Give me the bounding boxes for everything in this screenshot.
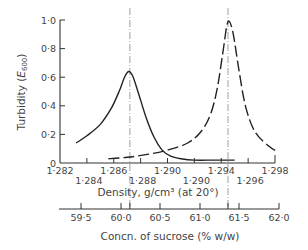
sedimentation-chart: 00·20·40·60·81·01·2821·2861·2901·2941·29… xyxy=(0,0,308,250)
data-series xyxy=(76,21,278,160)
x-tick-label: 1·294 xyxy=(208,165,235,176)
secondary-x-tick-label: 61·0 xyxy=(189,212,210,223)
secondary-x-tick-label: 59·5 xyxy=(70,212,91,223)
x-tick-label: 1·288 xyxy=(129,175,156,186)
x-tick-label: 1·286 xyxy=(100,165,127,176)
secondary-x-axis-title: Concn. of sucrose (% w/w) xyxy=(101,230,240,242)
x-tick-label: 1·290 xyxy=(183,175,210,186)
secondary-x-tick-label: 61·5 xyxy=(228,212,249,223)
x-tick-label: 1·290 xyxy=(154,165,181,176)
x-tick-label: 1·282 xyxy=(46,165,73,176)
dashed-curve xyxy=(108,21,277,159)
secondary-x-tick-label: 60·0 xyxy=(110,212,131,223)
y-axis-title: Turbidity (E600) xyxy=(15,54,29,132)
y-tick-label: 0·4 xyxy=(41,100,56,111)
x-tick-label: 1·296 xyxy=(237,175,264,186)
y-tick-label: 1·0 xyxy=(41,15,56,26)
x-tick-label: 1·284 xyxy=(75,175,102,186)
y-tick-label: 0·2 xyxy=(41,129,56,140)
x-axis-title: Density, g/cm³ (at 20°) xyxy=(97,186,218,198)
solid-curve xyxy=(76,71,235,160)
secondary-x-tick-label: 62·0 xyxy=(268,212,289,223)
y-tick-label: 0·6 xyxy=(41,72,56,83)
y-tick-label: 0·8 xyxy=(41,43,56,54)
x-tick-label: 1·298 xyxy=(261,165,288,176)
secondary-x-tick-label: 60·5 xyxy=(149,212,170,223)
